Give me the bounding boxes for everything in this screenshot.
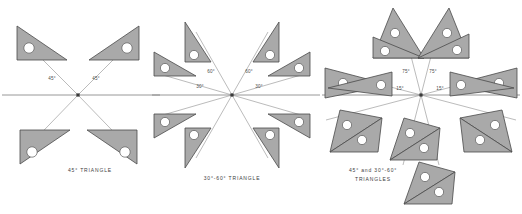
- triangle-upper-left-hole: [24, 43, 34, 53]
- triangle-lower-left-b-hole: [357, 135, 366, 144]
- triangle-lower-left-a-hole: [342, 120, 351, 129]
- triangle-bottom-a-hole: [405, 128, 414, 137]
- angle-label: 30°: [255, 84, 263, 89]
- figure-canvas: 45°45°45° TRIANGLE60°60°30°30°30°-60° TR…: [0, 0, 522, 214]
- panel-30-60: 60°60°30°30°30°-60° TRIANGLE: [152, 22, 320, 181]
- angle-label: 75°: [402, 69, 410, 74]
- angle-label: 45°: [48, 76, 56, 81]
- triangle-top-left-a-hole: [390, 28, 399, 37]
- triangle-arrangement-figure: 45°45°45° TRIANGLE60°60°30°30°30°-60° TR…: [0, 0, 522, 214]
- radial-ray: [196, 95, 232, 158]
- triangle-bottom-b-hole: [419, 143, 428, 152]
- angle-label: 60°: [245, 69, 253, 74]
- triangle-top-left-hole: [189, 50, 198, 59]
- triangle-upper-right-hole: [122, 43, 132, 53]
- triangle-upper-left[interactable]: [17, 26, 67, 60]
- triangle-lower-left[interactable]: [20, 130, 70, 164]
- triangle-bottom-d-hole: [434, 187, 443, 196]
- triangle-bottom-right[interactable]: [253, 128, 279, 168]
- triangle-mid-left-hole: [160, 63, 169, 72]
- triangle-lower-right[interactable]: [87, 130, 137, 164]
- triangle-left-b-hole: [376, 80, 385, 89]
- triangle-lower-right-a-hole: [490, 120, 499, 129]
- triangle-lower-right-hole: [120, 147, 130, 157]
- triangle-bottom-left[interactable]: [185, 128, 211, 168]
- radial-ray: [232, 95, 301, 115]
- convergence-hub: [419, 93, 422, 96]
- triangle-low-left-hole: [160, 117, 169, 126]
- radial-ray: [163, 95, 232, 115]
- angle-label: 45°: [92, 76, 100, 81]
- triangle-lower-left-body: [20, 130, 70, 164]
- radial-ray: [232, 75, 301, 95]
- panel-caption: 45° and 30°-60°: [349, 167, 397, 173]
- angle-label: 75°: [429, 69, 437, 74]
- triangle-mid-right-hole: [294, 63, 303, 72]
- triangle-upper-right[interactable]: [89, 26, 139, 60]
- triangle-top-right-a-hole: [442, 28, 451, 37]
- angle-label: 60°: [207, 69, 215, 74]
- convergence-hub: [230, 93, 233, 96]
- triangle-top-right[interactable]: [253, 22, 279, 62]
- angle-label: 15°: [436, 86, 444, 91]
- triangle-right-b-hole: [456, 80, 465, 89]
- triangle-bottom-right-hole: [265, 130, 274, 139]
- panel-caption: TRIANGLES: [355, 176, 391, 182]
- panel-combined: 75°75°15°15°45° and 30°-60°TRIANGLES: [322, 8, 520, 204]
- angle-label: 30°: [196, 84, 204, 89]
- convergence-hub: [76, 93, 79, 96]
- triangle-top-left-b-hole: [380, 46, 389, 55]
- triangle-top-right-b-hole: [452, 45, 461, 54]
- triangle-low-right-hole: [294, 117, 303, 126]
- panel-caption: 30°-60° TRIANGLE: [204, 175, 261, 181]
- triangle-lower-right-body: [87, 130, 137, 164]
- triangle-upper-left-body: [17, 26, 67, 60]
- angle-label: 15°: [396, 86, 404, 91]
- triangle-top-left[interactable]: [185, 22, 211, 62]
- triangle-top-right-hole: [265, 50, 274, 59]
- panel-caption: 45° TRIANGLE: [68, 167, 112, 173]
- radial-ray: [232, 95, 268, 158]
- triangle-upper-right-body: [89, 26, 139, 60]
- triangle-bottom-c-hole: [420, 172, 429, 181]
- triangle-lower-left-hole: [27, 147, 37, 157]
- panel-45: 45°45°45° TRIANGLE: [2, 26, 160, 173]
- triangle-lower-right-b-hole: [475, 135, 484, 144]
- triangle-bottom-left-hole: [189, 130, 198, 139]
